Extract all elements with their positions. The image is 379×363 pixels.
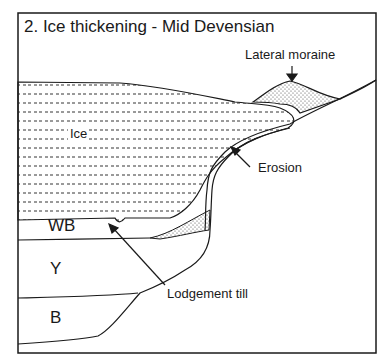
erosion-arrow — [231, 147, 250, 167]
label-erosion: Erosion — [258, 160, 302, 175]
label-layer-wb: WB — [48, 216, 75, 236]
lodgement-till-arrow — [109, 224, 165, 285]
label-layer-y: Y — [50, 259, 61, 279]
label-lodgement-till: Lodgement till — [167, 286, 248, 301]
ice-mass — [18, 82, 294, 222]
wb-y-boundary — [18, 238, 150, 240]
label-layer-b: B — [50, 308, 61, 328]
y-b-boundary — [18, 293, 138, 298]
label-lateral-moraine: Lateral moraine — [245, 47, 335, 62]
lateral-moraine-arrow — [287, 66, 297, 81]
diagram-title: 2. Ice thickening - Mid Devensian — [24, 17, 274, 37]
label-ice: Ice — [68, 126, 89, 141]
